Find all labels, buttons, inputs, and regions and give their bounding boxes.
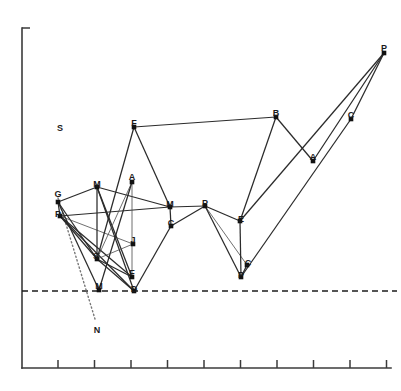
data-point-label-p10: D bbox=[131, 284, 138, 294]
scatter-plot-figure: GPMAFSJMFDMCPECPBACP SN bbox=[0, 0, 401, 391]
edge-p13-p16 bbox=[205, 206, 241, 277]
markers-group bbox=[56, 51, 387, 294]
annotation-label-a1: S bbox=[57, 123, 63, 133]
edge-p2-p9 bbox=[60, 216, 132, 277]
data-point-label-p1: G bbox=[54, 189, 61, 199]
data-point-label-p17: B bbox=[273, 108, 280, 118]
edge-p17-p18 bbox=[276, 117, 313, 161]
data-point-label-p4: A bbox=[129, 172, 136, 182]
annotation-label-a2: N bbox=[94, 325, 101, 335]
edge-p3-p11 bbox=[97, 187, 170, 207]
data-point-label-p7: J bbox=[130, 235, 135, 245]
edge-p14-p17 bbox=[240, 117, 276, 221]
data-point-label-p3: M bbox=[93, 179, 101, 189]
plot-canvas: GPMAFSJMFDMCPECPBACP SN bbox=[0, 0, 401, 391]
data-point-label-p11: M bbox=[166, 199, 174, 209]
data-point-label-p6: S bbox=[93, 251, 99, 261]
edges-group bbox=[58, 53, 384, 291]
edge-p2-p11 bbox=[60, 207, 170, 216]
edge-p16-p19 bbox=[241, 119, 351, 277]
edge-p5-p11 bbox=[134, 127, 170, 207]
edge-p4-p6 bbox=[97, 182, 132, 259]
data-point-label-p2: P bbox=[55, 209, 61, 219]
edge-p10-p12 bbox=[134, 226, 171, 291]
data-point-label-p14: E bbox=[238, 214, 244, 224]
data-point-label-p9: F bbox=[129, 268, 135, 278]
edge-p11-p13 bbox=[170, 206, 205, 207]
data-point-marker-p1 bbox=[56, 200, 61, 205]
data-point-label-p19: C bbox=[348, 110, 355, 120]
edge-p18-p20 bbox=[313, 53, 384, 161]
data-point-label-p18: A bbox=[310, 152, 317, 162]
data-point-label-p12: C bbox=[168, 218, 175, 228]
edge-p12-p13 bbox=[171, 206, 205, 226]
edge-p14-p20 bbox=[240, 53, 384, 221]
data-point-label-p16: P bbox=[238, 270, 244, 280]
data-point-label-p20: P bbox=[381, 43, 387, 53]
data-point-label-p15: C bbox=[245, 258, 252, 268]
edge-p1-p3 bbox=[58, 187, 97, 202]
edge-p5-p17 bbox=[134, 117, 276, 127]
data-point-label-p13: P bbox=[202, 198, 208, 208]
edge-p14-p16 bbox=[240, 221, 241, 277]
data-point-label-p8: M bbox=[95, 281, 103, 291]
data-point-label-p5: F bbox=[131, 118, 137, 128]
